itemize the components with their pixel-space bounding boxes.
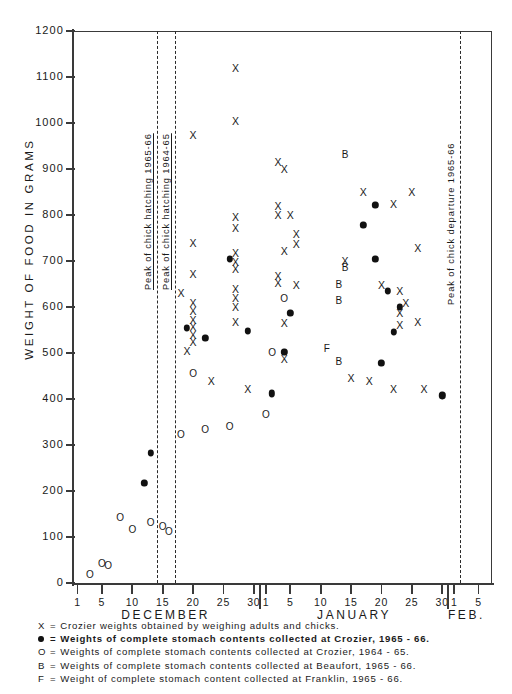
- annotation-line: [175, 31, 176, 583]
- x-tick: [350, 585, 352, 594]
- data-point-O: O: [86, 570, 94, 580]
- data-point-X: X: [190, 237, 197, 248]
- legend-row: O=Weights of complete stomach contents c…: [38, 646, 508, 657]
- data-point-X: X: [287, 210, 294, 221]
- data-point-O: O: [147, 518, 155, 528]
- x-tick-label: 1: [74, 596, 81, 608]
- data-point-X: X: [420, 384, 427, 395]
- y-tick-label: 0: [24, 577, 64, 588]
- legend-text: Weight of complete stomach content colle…: [60, 673, 403, 684]
- data-point-X: X: [232, 316, 239, 327]
- x-tick: [478, 585, 480, 594]
- y-tick-label: 800: [24, 209, 64, 220]
- y-tick: [66, 168, 75, 170]
- data-point-B: B: [342, 263, 349, 273]
- legend-symbol-X: X: [38, 620, 47, 631]
- y-tick-label: 500: [24, 347, 64, 358]
- x-tick: [223, 585, 225, 594]
- data-point-X: X: [396, 286, 403, 297]
- y-tick: [66, 490, 75, 492]
- data-point-B: B: [336, 280, 343, 290]
- legend-symbol-F: F: [38, 673, 47, 684]
- x-tick: [453, 585, 455, 594]
- annotation-label: Peak of chick hatching 1964-65: [161, 133, 171, 290]
- legend-row: F=Weight of complete stomach content col…: [38, 673, 508, 684]
- legend-row: X=Crozier weights obtained by weighing a…: [38, 620, 508, 631]
- x-tick-label: 5: [475, 596, 482, 608]
- y-tick-label: 1100: [24, 71, 64, 82]
- data-point-O: O: [268, 348, 276, 358]
- y-tick: [66, 536, 75, 538]
- data-point-O: O: [280, 294, 288, 304]
- data-point-X: X: [190, 129, 197, 140]
- x-tick: [289, 585, 291, 594]
- y-tick: [66, 582, 75, 584]
- y-tick: [66, 76, 75, 78]
- x-tick: [162, 585, 164, 594]
- legend-equals: =: [50, 646, 56, 657]
- data-point-X: X: [275, 210, 282, 221]
- x-tick: [411, 585, 413, 594]
- data-point-O: O: [226, 422, 234, 432]
- data-point-B: B: [336, 296, 343, 306]
- data-point-X: X: [281, 164, 288, 175]
- y-tick: [66, 444, 75, 446]
- data-point-O: O: [128, 525, 136, 535]
- x-tick: [320, 585, 322, 594]
- legend-text: Weights of complete stomach contents col…: [60, 633, 429, 644]
- x-tick-label: 5: [99, 596, 106, 608]
- legend-equals: =: [50, 620, 56, 631]
- x-tick-label: 15: [156, 596, 169, 608]
- x-axis-line: [72, 583, 494, 585]
- legend-text: Weights of complete stomach contents col…: [60, 646, 409, 657]
- legend-equals: =: [50, 660, 56, 671]
- annotation-label: Peak of chick hatching 1965-66: [143, 133, 153, 290]
- data-point-X: X: [293, 238, 300, 249]
- data-point-O: O: [189, 369, 197, 379]
- x-tick-label: 10: [126, 596, 139, 608]
- data-point-X: X: [232, 223, 239, 234]
- x-tick-label: 1: [263, 596, 270, 608]
- legend: X=Crozier weights obtained by weighing a…: [38, 620, 508, 686]
- y-tick-label: 100: [24, 531, 64, 542]
- x-tick-label: 10: [314, 596, 327, 608]
- month-separator: [259, 583, 261, 609]
- legend-equals: =: [50, 673, 56, 684]
- y-tick-label: 400: [24, 393, 64, 404]
- data-point-X: X: [396, 320, 403, 331]
- x-tick-label: 1: [451, 596, 458, 608]
- x-tick-label: 5: [287, 596, 294, 608]
- y-tick: [66, 398, 75, 400]
- data-point-X: X: [232, 302, 239, 313]
- data-point-X: X: [190, 337, 197, 348]
- legend-row: =Weights of complete stomach contents co…: [38, 633, 508, 644]
- legend-row: B=Weights of complete stomach contents c…: [38, 660, 508, 671]
- x-tick: [441, 585, 443, 594]
- data-point-X: X: [414, 316, 421, 327]
- y-tick: [66, 352, 75, 354]
- y-tick: [66, 214, 75, 216]
- data-point-F: F: [324, 344, 330, 354]
- data-point-O: O: [177, 430, 185, 440]
- data-point-B: B: [342, 150, 349, 160]
- data-point-X: X: [390, 198, 397, 209]
- month-separator: [447, 583, 449, 609]
- data-point-X: X: [208, 375, 215, 386]
- legend-symbol-dot: [38, 633, 47, 644]
- annotation-line: [157, 31, 158, 583]
- x-tick-label: 25: [217, 596, 230, 608]
- data-point-B: B: [336, 357, 343, 367]
- data-point-X: X: [177, 288, 184, 299]
- x-tick-label: 20: [186, 596, 199, 608]
- data-point-X: X: [232, 115, 239, 126]
- data-point-O: O: [201, 425, 209, 435]
- data-point-X: X: [366, 375, 373, 386]
- data-point-X: X: [402, 298, 409, 309]
- y-tick-label: 700: [24, 255, 64, 266]
- scatter-chart-figure: WEIGHT OF FOOD IN GRAMS 0100200300400500…: [0, 0, 512, 694]
- plot-frame: [74, 31, 492, 583]
- legend-text: Weights of complete stomach contents col…: [60, 660, 416, 671]
- y-axis-title: WEIGHT OF FOOD IN GRAMS: [23, 124, 35, 374]
- x-tick: [192, 585, 194, 594]
- data-point-O: O: [104, 561, 112, 571]
